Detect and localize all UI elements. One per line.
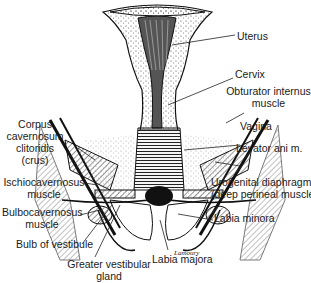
label-urogenital-diaphragm: Urogenital diaphragm (deep perineal musc… <box>211 176 311 200</box>
label-labia-minora: Labia minora <box>214 212 275 224</box>
label-obturator-internus: Obturator internus muscle <box>226 85 311 109</box>
label-uterus: Uterus <box>237 30 268 42</box>
vagina <box>134 128 184 190</box>
label-greater-vestibular-gland: Greater vestibular gland <box>66 258 152 282</box>
label-labia-majora: Labia majora <box>152 253 213 265</box>
label-cervix: Cervix <box>235 68 265 80</box>
label-ischiocavernosus: Ischiocavernosus muscle <box>2 176 86 200</box>
label-corpus-cavernosum: Corpus cavernosum clitoridis (crus) <box>4 118 66 166</box>
label-vagina: Vagina <box>240 120 272 132</box>
label-bulb-of-vestibule: Bulb of vestibule <box>16 238 93 250</box>
label-bulbocavernosus: Bulbocavernosus muscle <box>2 206 82 230</box>
label-levator-ani: Levator ani m. <box>236 142 303 154</box>
